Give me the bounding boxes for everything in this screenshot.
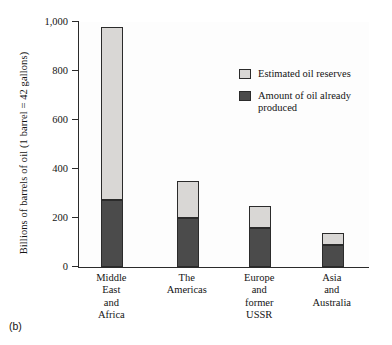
y-tick-1000: 1,000 [72,21,79,22]
y-axis-title: Billions of barrels of oil (1 barrel = 4… [16,18,32,288]
bar-the-americas[interactable] [177,181,199,267]
y-tick-label-1000: 1,000 [44,14,68,30]
bar-segment-reserves [249,206,271,228]
legend-entry-reserves: Estimated oil reserves [239,68,351,81]
bar-segment-reserves [177,181,199,218]
legend-label-produced: Amount of oil already produced [258,90,351,115]
legend-swatch-produced-icon [239,91,251,101]
y-tick-200: 200 [72,217,79,218]
bar-middle-east-and-africa[interactable] [101,27,123,267]
bar-segment-produced [177,218,199,267]
y-tick-label-800: 800 [52,63,68,79]
bar-segment-reserves [101,27,123,200]
legend-label-reserves: Estimated oil reserves [258,68,351,81]
legend: Estimated oil reserves Amount of oil alr… [239,68,351,124]
bar-segment-produced [322,245,344,267]
x-category-label-asia-and-australia: Asia and Australia [286,272,378,309]
bar-asia-and-australia[interactable] [322,233,344,267]
bar-europe-and-former-ussr[interactable] [249,206,271,267]
y-tick-label-600: 600 [52,112,68,128]
legend-swatch-reserves-icon [239,69,251,79]
bar-segment-produced [249,228,271,267]
y-tick-0: 0 [72,266,79,267]
y-tick-label-200: 200 [52,210,68,226]
panel-label: (b) [9,320,22,332]
plot-area: 0 200 400 600 800 1,000 [78,22,369,268]
y-tick-400: 400 [72,168,79,169]
y-tick-label-400: 400 [52,161,68,177]
bar-segment-produced [101,200,123,267]
figure-panel-b: Billions of barrels of oil (1 barrel = 4… [0,0,392,345]
legend-entry-produced: Amount of oil already produced [239,90,351,115]
y-tick-800: 800 [72,70,79,71]
bar-segment-reserves [322,233,344,245]
y-tick-600: 600 [72,119,79,120]
